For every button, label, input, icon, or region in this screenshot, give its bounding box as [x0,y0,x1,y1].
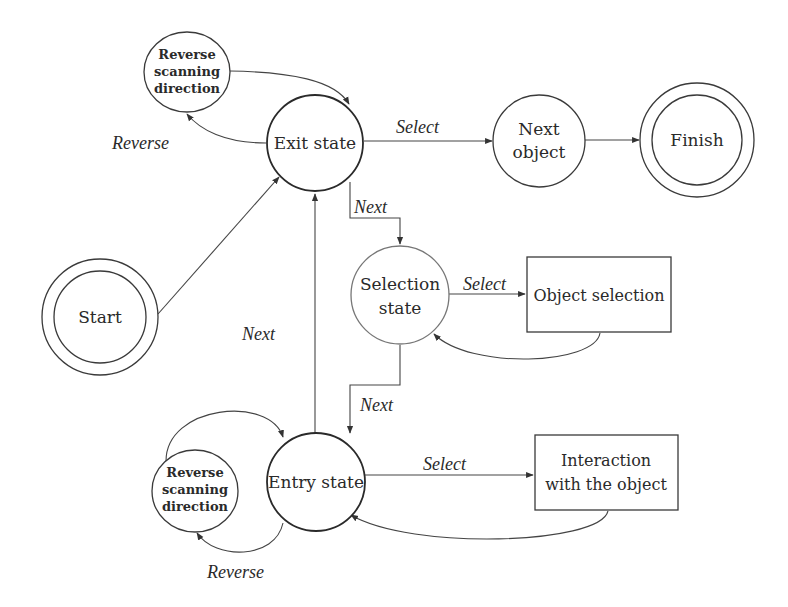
node-reverse-top-line3: direction [154,81,221,96]
node-reverse-bottom-line3: direction [162,499,229,514]
node-object-selection-label: Object selection [534,286,665,305]
node-exit-state-label: Exit state [274,133,356,153]
node-finish-label: Finish [670,130,723,150]
node-finish: Finish [640,83,754,197]
label-exit-select: Select [396,117,440,137]
edge-exit-to-reverse-top [187,114,266,143]
label-entry-next-up: Next [241,324,276,344]
label-selection-select: Select [463,274,507,294]
node-exit-state: Exit state [267,95,363,191]
node-reverse-top: Reverse scanning direction [144,32,230,112]
edge-object-selection-to-selection [434,333,600,359]
node-entry-state-label: Entry state [268,472,364,492]
node-interaction-line1: Interaction [561,451,651,470]
edge-interaction-to-entry [351,511,608,539]
label-entry-reverse: Reverse [206,562,264,582]
edge-start-to-exit [158,177,279,314]
node-object-selection: Object selection [527,257,671,332]
node-reverse-bottom-line1: Reverse [166,465,223,480]
node-reverse-top-line1: Reverse [158,47,215,62]
label-exit-next: Next [353,197,388,217]
node-interaction: Interaction with the object [535,435,678,510]
node-selection-state: Selection state [351,246,449,344]
node-interaction-line2: with the object [545,475,667,494]
node-reverse-bottom: Reverse scanning direction [152,450,238,532]
node-selection-state-line1: Selection [360,274,440,294]
node-next-object-line1: Next [518,119,560,139]
node-start: Start [42,259,158,375]
node-selection-state-line2: state [379,298,422,318]
node-next-object-line2: object [513,142,566,162]
state-diagram: Reverse Select Next Next Select Next Sel… [0,0,788,607]
label-selection-next: Next [359,395,394,415]
label-exit-reverse: Reverse [111,133,169,153]
label-entry-select: Select [423,454,467,474]
node-reverse-bottom-line2: scanning [162,482,228,497]
edge-selection-to-entry [350,345,400,433]
node-reverse-top-line2: scanning [154,64,220,79]
node-start-label: Start [78,307,122,327]
node-entry-state: Entry state [267,433,365,531]
node-next-object: Next object [493,95,585,187]
